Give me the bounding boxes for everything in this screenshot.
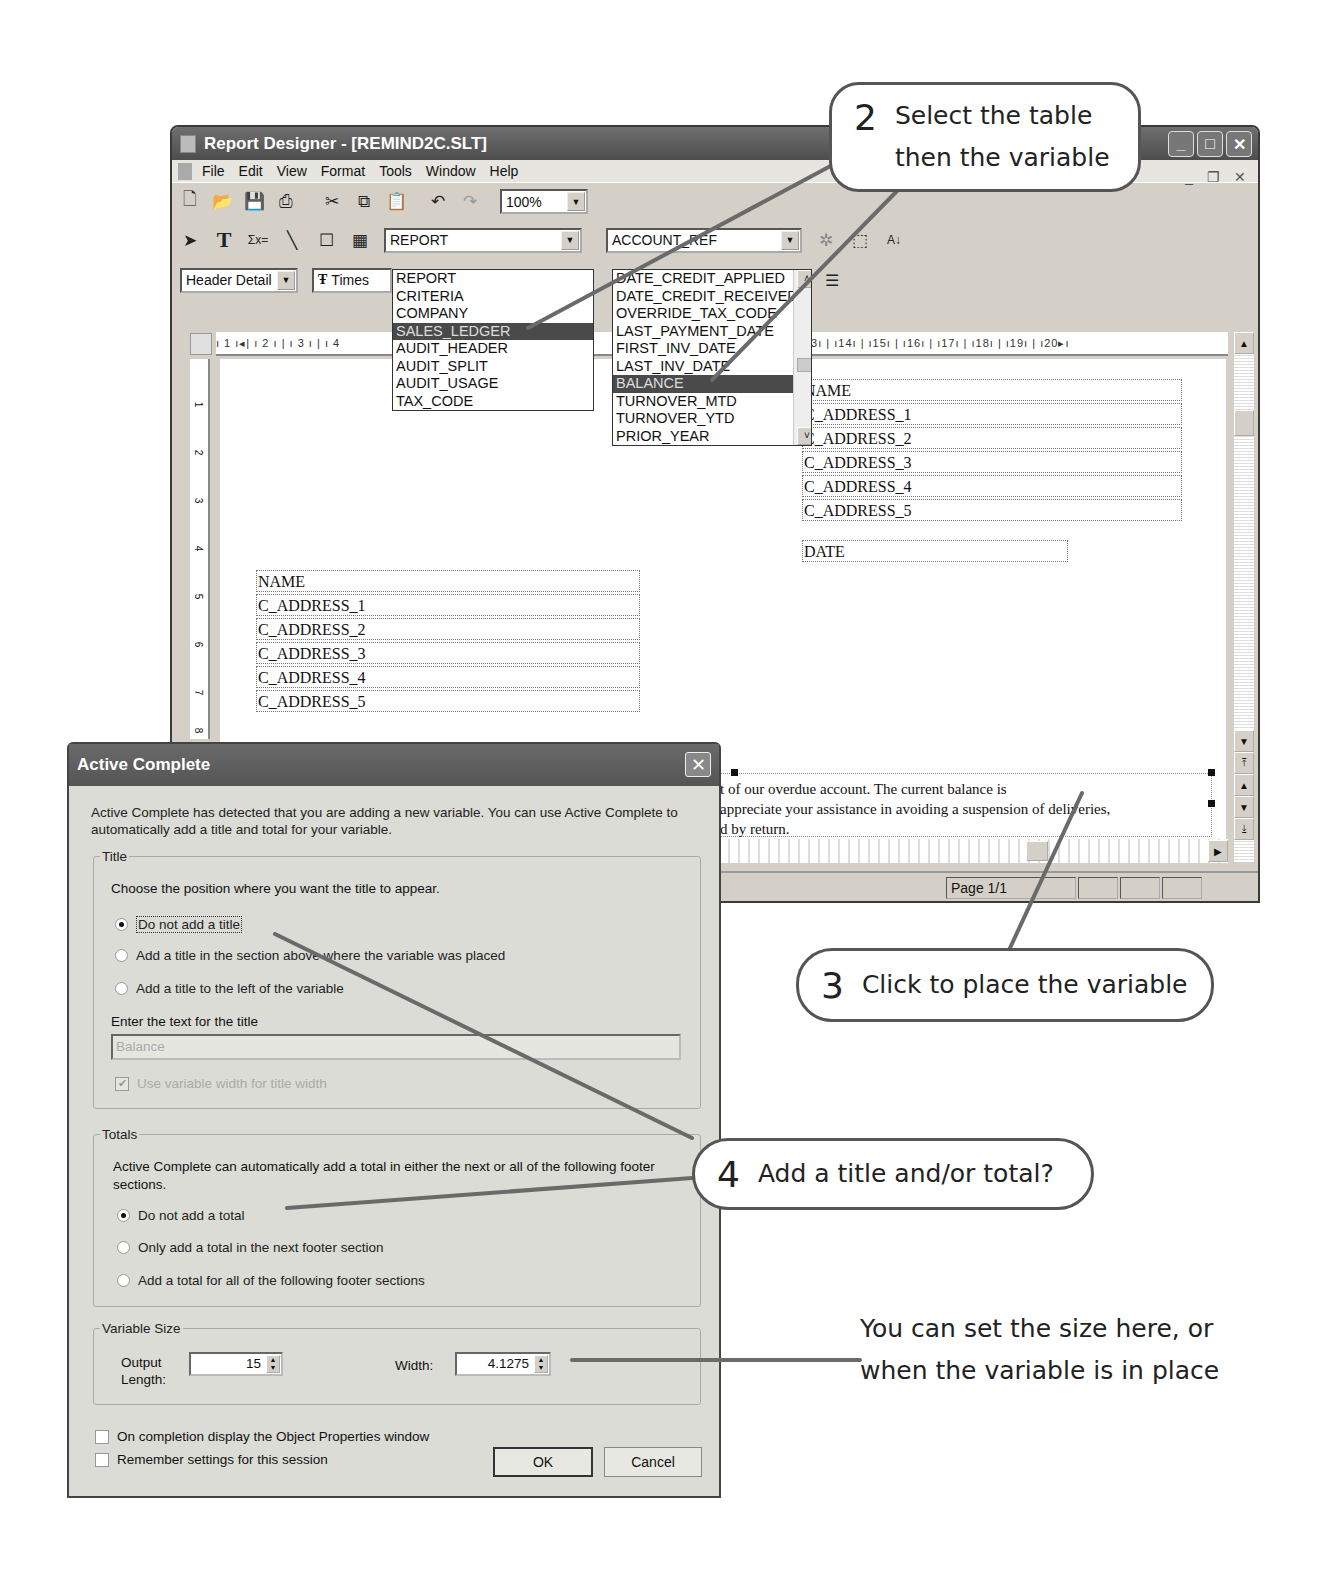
report-field[interactable]: C_ADDRESS_3 (802, 451, 1182, 473)
title-text-input[interactable]: Balance (111, 1034, 681, 1060)
dropdown-option[interactable]: FIRST_INV_DATE (613, 340, 793, 358)
vertical-scrollbar[interactable]: ▲ ▼ ⤒ ▲ ▼ ⤓ (1234, 332, 1254, 862)
menu-tools[interactable]: Tools (379, 163, 412, 179)
maximize-button[interactable]: □ (1197, 131, 1223, 157)
redo-icon[interactable]: ↷ (460, 192, 480, 212)
new-file-icon[interactable]: 🗋 (180, 192, 200, 212)
undo-icon[interactable]: ↶ (428, 192, 448, 212)
scroll-right-button[interactable]: ▶ (1208, 840, 1228, 862)
dropdown-option-selected[interactable]: SALES_LEDGER (393, 323, 593, 341)
copy-icon[interactable]: ⧉ (354, 192, 374, 212)
spin-arrows-icon[interactable]: ▲▼ (266, 1355, 280, 1373)
save-icon[interactable]: 💾 (244, 192, 264, 212)
close-icon[interactable]: ✕ (685, 752, 711, 777)
justify-icon[interactable]: ☰ (822, 270, 842, 290)
report-field[interactable]: C_ADDRESS_5 (802, 499, 1182, 521)
scroll-down-button[interactable]: ˅ (797, 427, 811, 445)
dropdown-option[interactable]: TURNOVER_YTD (613, 410, 793, 428)
radio-button[interactable] (115, 918, 128, 931)
scroll-down-button[interactable]: ▼ (1234, 730, 1254, 752)
radio-title-left[interactable]: Add a title to the left of the variable (115, 981, 344, 996)
dropdown-scrollbar[interactable]: ˄ ˅ (793, 270, 811, 445)
radio-button[interactable] (117, 1209, 130, 1222)
dropdown-option-selected[interactable]: BALANCE (613, 375, 793, 393)
report-field[interactable]: NAME (802, 379, 1182, 401)
line-tool-icon[interactable]: ╲ (282, 230, 302, 250)
radio-button[interactable] (115, 949, 128, 962)
cancel-button[interactable]: Cancel (604, 1447, 702, 1477)
menu-window[interactable]: Window (426, 163, 476, 179)
print-icon[interactable]: ⎙ (276, 192, 296, 212)
resize-handle[interactable] (1208, 769, 1215, 776)
report-field[interactable]: C_ADDRESS_2 (256, 618, 640, 640)
page-last-button[interactable]: ⤓ (1234, 818, 1254, 840)
radio-total-all-footers[interactable]: Add a total for all of the following foo… (117, 1273, 425, 1288)
menu-file[interactable]: File (202, 163, 225, 179)
radio-button[interactable] (117, 1241, 130, 1254)
report-field[interactable]: NAME (256, 570, 640, 592)
menu-format[interactable]: Format (321, 163, 365, 179)
remember-settings-checkbox-row[interactable]: Remember settings for this session (95, 1452, 328, 1467)
zoom-combo[interactable]: 100% ▼ (500, 189, 588, 214)
dropdown-option[interactable]: LAST_INV_DATE (613, 358, 793, 376)
mdi-close-button[interactable]: ✕ (1234, 169, 1246, 185)
page-up-button[interactable]: ▲ (1234, 774, 1254, 796)
dropdown-option[interactable]: COMPANY (393, 305, 593, 323)
scroll-thumb[interactable] (797, 358, 811, 372)
pointer-icon[interactable]: ➤ (180, 230, 200, 250)
scroll-thumb[interactable] (1026, 841, 1048, 861)
report-field[interactable]: C_ADDRESS_4 (256, 666, 640, 688)
chevron-down-icon[interactable]: ▼ (781, 231, 799, 250)
object-properties-checkbox[interactable] (95, 1430, 109, 1444)
report-field[interactable]: C_ADDRESS_4 (802, 475, 1182, 497)
wizard-icon[interactable]: ✲ (816, 230, 836, 250)
dropdown-option[interactable]: PRIOR_YEAR (613, 428, 793, 446)
dropdown-option[interactable]: AUDIT_SPLIT (393, 358, 593, 376)
close-button[interactable]: ✕ (1226, 131, 1252, 157)
dropdown-option[interactable]: LAST_PAYMENT_DATE (613, 323, 793, 341)
ok-button[interactable]: OK (493, 1447, 593, 1477)
object-properties-checkbox-row[interactable]: On completion display the Object Propert… (95, 1429, 429, 1444)
chevron-down-icon[interactable]: ▼ (561, 231, 579, 250)
picture-tool-icon[interactable]: ▦ (350, 230, 370, 250)
table-combo[interactable]: REPORT ▼ (384, 228, 582, 253)
scroll-up-button[interactable]: ˄ (797, 270, 811, 288)
sort-az-icon[interactable]: A↓ (884, 230, 904, 250)
dropdown-option[interactable]: CRITERIA (393, 288, 593, 306)
radio-button[interactable] (115, 982, 128, 995)
box-tool-icon[interactable]: ☐ (316, 230, 336, 250)
report-field[interactable]: C_ADDRESS_5 (256, 690, 640, 712)
report-field[interactable]: C_ADDRESS_3 (256, 642, 640, 664)
mdi-restore-button[interactable]: ❐ (1207, 169, 1220, 185)
select-icon[interactable]: ⬚ (850, 230, 870, 250)
use-width-checkbox[interactable]: ✔ (115, 1077, 129, 1091)
resize-handle[interactable] (731, 769, 738, 776)
radio-total-next-footer[interactable]: Only add a total in the next footer sect… (117, 1240, 383, 1255)
width-stepper[interactable]: 4.1275 ▲▼ (455, 1352, 551, 1376)
chevron-down-icon[interactable]: ▼ (567, 192, 585, 211)
paste-icon[interactable]: 📋 (386, 192, 406, 212)
scroll-up-button[interactable]: ▲ (1234, 332, 1254, 354)
expression-tool-icon[interactable]: Σx= (248, 230, 268, 250)
variable-combo[interactable]: ACCOUNT_REF ▼ (606, 228, 802, 253)
scroll-thumb[interactable] (1234, 410, 1254, 436)
cut-icon[interactable]: ✂ (322, 192, 342, 212)
radio-no-title[interactable]: Do not add a title (115, 916, 242, 933)
remember-settings-checkbox[interactable] (95, 1453, 109, 1467)
variable-dropdown-list[interactable]: DATE_CREDIT_APPLIED DATE_CREDIT_RECEIVED… (612, 269, 812, 446)
date-field[interactable]: DATE (802, 540, 1068, 562)
dropdown-option[interactable]: TAX_CODE (393, 393, 593, 411)
radio-title-above[interactable]: Add a title in the section above where t… (115, 948, 505, 963)
dropdown-option[interactable]: AUDIT_HEADER (393, 340, 593, 358)
mdi-minimize-button[interactable]: _ (1185, 169, 1193, 185)
page-first-button[interactable]: ⤒ (1234, 752, 1254, 774)
radio-button[interactable] (117, 1274, 130, 1287)
dropdown-option[interactable]: AUDIT_USAGE (393, 375, 593, 393)
table-dropdown-list[interactable]: REPORT CRITERIA COMPANY SALES_LEDGER AUD… (392, 269, 594, 411)
section-combo[interactable]: Header Detail ▼ (180, 268, 298, 293)
report-field[interactable]: C_ADDRESS_1 (802, 403, 1182, 425)
output-length-stepper[interactable]: 15 ▲▼ (189, 1352, 283, 1376)
menu-edit[interactable]: Edit (239, 163, 263, 179)
resize-handle[interactable] (1208, 800, 1215, 807)
dropdown-option[interactable]: TURNOVER_MTD (613, 393, 793, 411)
